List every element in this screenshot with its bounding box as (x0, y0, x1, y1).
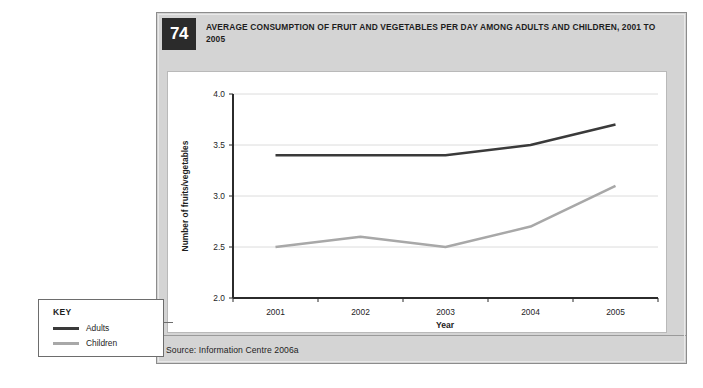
svg-text:3.5: 3.5 (213, 140, 225, 150)
figure-title: AVERAGE CONSUMPTION OF FRUIT AND VEGETAB… (206, 21, 668, 45)
figure-panel: 74 AVERAGE CONSUMPTION OF FRUIT AND VEGE… (156, 12, 687, 364)
x-axis-tick-labels: 20012002200320042005 (266, 307, 625, 317)
legend-title: KEY (53, 307, 163, 317)
line-chart: 2.02.53.03.54.0 20012002200320042005 Num… (168, 72, 666, 332)
plot-frame: 2.02.53.03.54.0 20012002200320042005 Num… (167, 71, 667, 333)
svg-text:2.0: 2.0 (213, 293, 225, 303)
svg-text:2001: 2001 (266, 307, 285, 317)
svg-text:4.0: 4.0 (213, 89, 225, 99)
svg-text:2.5: 2.5 (213, 242, 225, 252)
figure-header: 74 AVERAGE CONSUMPTION OF FRUIT AND VEGE… (157, 13, 686, 65)
legend-item-adults: Adults (53, 323, 163, 333)
gridlines (233, 94, 658, 247)
figure-number-badge: 74 (162, 18, 196, 50)
legend-swatch-adults (53, 327, 79, 330)
svg-text:2004: 2004 (521, 307, 540, 317)
y-axis-tick-labels: 2.02.53.03.54.0 (213, 89, 225, 303)
legend-key-box: KEY Adults Children (38, 299, 164, 357)
y-axis-title: Number of fruits/vegetables (180, 140, 190, 251)
svg-text:2002: 2002 (351, 307, 370, 317)
svg-text:2005: 2005 (606, 307, 625, 317)
source-text: Source: Information Centre 2006a (166, 345, 299, 355)
x-axis-title: Year (436, 320, 455, 330)
svg-text:2003: 2003 (436, 307, 455, 317)
legend-label-children: Children (86, 338, 117, 348)
source-bar: Source: Information Centre 2006a (157, 335, 686, 363)
legend-connector-line (163, 322, 173, 323)
legend-label-adults: Adults (86, 323, 109, 333)
svg-text:3.0: 3.0 (213, 191, 225, 201)
series-lines (276, 125, 616, 247)
legend-swatch-children (53, 342, 79, 345)
legend-item-children: Children (53, 338, 163, 348)
